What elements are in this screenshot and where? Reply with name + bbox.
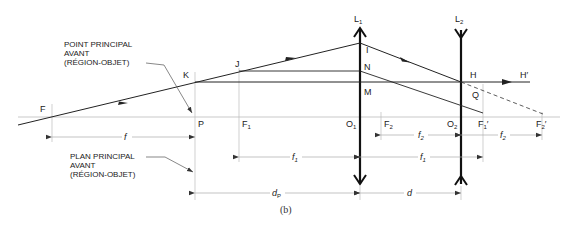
dim-f: f <box>124 132 127 142</box>
note-plan-principal: PLAN PRINCIPAL AVANT (RÉGION-OBJET) <box>70 152 135 179</box>
figure-caption: (b) <box>280 204 292 215</box>
label-m: M <box>364 87 372 97</box>
label-f1-prime: F1′ <box>478 119 489 132</box>
label-k: K <box>183 70 189 80</box>
label-f1: F1 <box>242 119 251 132</box>
label-h-prime: H′ <box>520 70 528 80</box>
label-l1: L1 <box>354 14 362 27</box>
label-i: I <box>366 45 369 55</box>
diagram-lines <box>0 0 572 231</box>
optics-diagram: POINT PRINCIPAL AVANT (RÉGION-OBJET) PLA… <box>0 0 572 231</box>
label-f2: F2 <box>384 119 393 132</box>
label-f: F <box>40 104 46 114</box>
label-n: N <box>364 62 371 72</box>
label-h: H <box>470 70 477 80</box>
label-j: J <box>235 59 240 69</box>
label-o1: O1 <box>346 119 356 132</box>
label-q: Q <box>472 90 479 100</box>
dim-dp: dP <box>272 188 281 201</box>
label-f2-prime: F2′ <box>536 119 547 132</box>
label-p: P <box>198 119 204 129</box>
note-point-principal: POINT PRINCIPAL AVANT (RÉGION-OBJET) <box>64 40 132 67</box>
dim-f2-left: f2 <box>418 130 424 143</box>
dim-d: d <box>407 188 412 198</box>
dim-f1-right: f1 <box>420 152 426 165</box>
dim-f2-right: f2 <box>500 130 506 143</box>
label-l2: L2 <box>455 14 463 27</box>
label-o2: O2 <box>447 119 457 132</box>
dim-f1-left: f1 <box>292 152 298 165</box>
